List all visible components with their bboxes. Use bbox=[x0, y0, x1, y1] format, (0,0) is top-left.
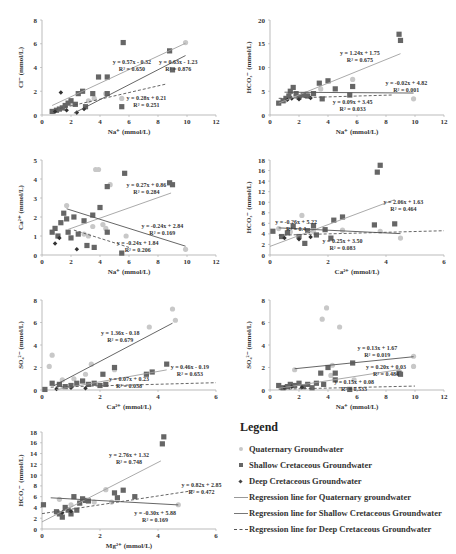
y-axis-label: HCO₃⁻ (mmol/L) bbox=[245, 181, 253, 234]
x-axis-label: Na⁺ (mmol/L) bbox=[336, 128, 379, 136]
x-tick-label: 0 bbox=[40, 393, 44, 401]
y-axis-label: HCO₃⁻ (mmol/L) bbox=[17, 454, 25, 507]
regression-r2: R² = 0.653 bbox=[177, 371, 203, 377]
y-tick-label: 2 bbox=[34, 214, 38, 222]
x-tick-label: 0 bbox=[268, 258, 272, 266]
legend-item-line-deep: Regression line for Deep Cretaceous Grou… bbox=[232, 521, 452, 537]
y-tick-label: 15 bbox=[258, 40, 266, 48]
y-tick-label: 10 bbox=[258, 199, 266, 207]
y-tick-label: 6 bbox=[34, 319, 38, 327]
solid-line-icon bbox=[232, 497, 249, 498]
x-tick-label: 0 bbox=[40, 118, 44, 126]
chart-svg: 02468101205101520Na⁺ (mmol/L)HCO₃⁻ (mmol… bbox=[228, 0, 456, 140]
x-tick-label: 6 bbox=[214, 393, 218, 401]
regression-equation: y = -0.26x + 5.22 bbox=[275, 219, 317, 225]
x-tick-label: 4 bbox=[156, 393, 160, 401]
regression-equation: y = 2.06x + 1.63 bbox=[383, 199, 423, 205]
y-axis-label: SO₄²⁻ (mmol/L) bbox=[245, 320, 253, 368]
regression-equation: y = 0.20x + 0.03 bbox=[366, 364, 406, 370]
regression-equation: y = 0.09x + 3.45 bbox=[333, 99, 373, 105]
chart-svg: 024602468Ca²⁺ (mmol/L)SO₄²⁻ (mmol/L)y = … bbox=[0, 280, 228, 415]
y-tick-label: 6 bbox=[262, 220, 266, 228]
x-tick-label: 2 bbox=[98, 393, 102, 401]
x-tick-label: 0 bbox=[40, 258, 44, 266]
regression-equation: y = 0.46x - 0.19 bbox=[171, 364, 209, 370]
x-tick-label: 8 bbox=[384, 393, 388, 401]
regression-r2: R² = 0.206 bbox=[125, 247, 151, 253]
legend-item-line-quaternary: Regression line for Quaternary groundwat… bbox=[232, 489, 452, 505]
chart-cl-vs-na: 02468101202468Na⁺ (mmol/L)Cl⁻ (mmol/L)y … bbox=[0, 0, 228, 140]
regression-equation: y = 0.57x - 0.32 bbox=[113, 59, 151, 65]
solid-line-icon bbox=[232, 513, 249, 514]
y-tick-label: 12 bbox=[30, 461, 38, 469]
y-tick-label: 18 bbox=[258, 157, 266, 165]
x-tick-label: 4 bbox=[326, 393, 330, 401]
chart-svg: 02468101202468Na⁺ (mmol/L)Cl⁻ (mmol/L)y … bbox=[0, 0, 228, 140]
x-tick-label: 4 bbox=[156, 532, 160, 540]
regression-r2: R² = 0.019 bbox=[364, 352, 390, 358]
regression-equation: y = -0.30x + 5.88 bbox=[134, 510, 176, 516]
chart-svg: 024681012012345Na⁺ (mmol/L)Ca²⁺ (mmol/L)… bbox=[0, 140, 228, 280]
series-square bbox=[42, 362, 169, 393]
x-tick-label: 10 bbox=[184, 118, 192, 126]
regression-r2: R² = 0.001 bbox=[393, 87, 419, 93]
legend-title: Legend bbox=[240, 420, 452, 435]
y-axis-label: Cl⁻ (mmol/L) bbox=[17, 46, 25, 88]
x-tick-label: 0 bbox=[268, 118, 272, 126]
x-tick-label: 2 bbox=[69, 118, 73, 126]
regression-equation: y = 0.27x + 0.86 bbox=[126, 182, 166, 188]
x-tick-label: 2 bbox=[297, 393, 301, 401]
y-tick-label: 8 bbox=[262, 209, 266, 217]
regression-equation: y = 1.24x + 1.75 bbox=[340, 50, 380, 56]
y-axis-label: HCO₃⁻ (mmol/L) bbox=[245, 41, 253, 94]
x-tick-label: 4 bbox=[98, 118, 102, 126]
y-tick-label: 5 bbox=[34, 157, 38, 165]
series-square bbox=[41, 434, 167, 519]
x-tick-label: 12 bbox=[213, 118, 221, 126]
x-tick-label: 0 bbox=[40, 532, 44, 540]
y-tick-label: 8 bbox=[34, 17, 38, 25]
y-tick-label: 2 bbox=[34, 364, 38, 372]
chart-hco3-vs-mg: 0246024681012141618Mg²⁺ (mmol/L)HCO₃⁻ (m… bbox=[0, 412, 228, 554]
x-axis-label: Mg²⁺ (mmol/L) bbox=[106, 542, 153, 550]
regression-r2: R² = 0.038 bbox=[116, 383, 142, 389]
regression-equation: y = -0.24x + 1.84 bbox=[117, 240, 159, 246]
regression-r2: R² = 0.083 bbox=[329, 245, 355, 251]
regression-line-quaternary bbox=[279, 54, 401, 103]
legend: Legend Quaternary Groundwater Shallow Cr… bbox=[232, 420, 452, 537]
x-tick-label: 2 bbox=[98, 532, 102, 540]
regression-r2: R² = 0.533 bbox=[341, 386, 367, 392]
regression-r2: R² = 0.4 bbox=[286, 226, 306, 232]
x-tick-label: 6 bbox=[355, 118, 359, 126]
x-tick-label: 12 bbox=[213, 258, 221, 266]
y-tick-label: 2 bbox=[34, 515, 38, 523]
regression-equation: y = 0.15x + 0.08 bbox=[334, 379, 374, 385]
x-axis-label: Na⁺ (mmol/L) bbox=[336, 403, 379, 411]
x-tick-label: 12 bbox=[441, 118, 449, 126]
y-tick-label: 8 bbox=[262, 297, 266, 305]
x-axis-label: Ca²⁺ (mmol/L) bbox=[335, 268, 380, 276]
x-tick-label: 2 bbox=[69, 258, 73, 266]
legend-item-line-shallow: Regression line for Shallow Cretaceous G… bbox=[232, 505, 452, 521]
circle-marker-icon bbox=[232, 447, 249, 451]
y-axis-label: SO₄²⁻ (mmol/L) bbox=[17, 320, 25, 368]
regression-equation: y = 0.63x - 1.23 bbox=[159, 59, 197, 65]
y-tick-label: 6 bbox=[262, 319, 266, 327]
x-tick-label: 8 bbox=[156, 118, 160, 126]
diamond-marker-icon bbox=[232, 480, 249, 483]
series-square bbox=[276, 32, 403, 106]
y-tick-label: 14 bbox=[258, 178, 266, 186]
y-tick-label: 10 bbox=[258, 64, 266, 72]
y-tick-label: 4 bbox=[34, 64, 38, 72]
x-tick-label: 0 bbox=[268, 393, 272, 401]
regression-r2: R² = 0.484 bbox=[373, 371, 399, 377]
regression-r2: R² = 0.033 bbox=[340, 106, 366, 112]
x-tick-label: 6 bbox=[355, 393, 359, 401]
regression-r2: R² = 0.251 bbox=[133, 102, 159, 108]
regression-equation: y = 0.25x + 3.50 bbox=[323, 238, 363, 244]
y-tick-label: 1 bbox=[34, 233, 38, 241]
x-tick-label: 2 bbox=[297, 118, 301, 126]
regression-equation: y = 0.13x + 1.67 bbox=[357, 345, 397, 351]
y-tick-label: 0 bbox=[34, 112, 38, 120]
y-tick-label: 4 bbox=[34, 504, 38, 512]
